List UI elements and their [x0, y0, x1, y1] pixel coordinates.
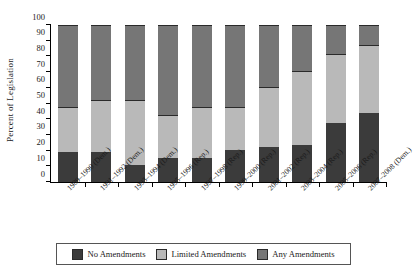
- y-tick: [46, 40, 51, 41]
- y-tick: [46, 118, 51, 119]
- y-tick-label: 90: [37, 28, 46, 37]
- y-tick-label: 10: [37, 154, 46, 163]
- y-tick-label: 20: [37, 138, 46, 147]
- x-tick: [219, 182, 220, 187]
- x-tick: [353, 182, 354, 187]
- bar-segment-any: [91, 25, 111, 100]
- y-tick: [46, 150, 51, 151]
- bar-1: [58, 25, 78, 182]
- y-tick: [46, 134, 51, 135]
- y-tick-label: 0: [41, 169, 45, 178]
- bar-segment-lim: [225, 107, 245, 150]
- legend-swatch: [156, 249, 167, 260]
- legend-label: No Amendments: [87, 249, 145, 259]
- bar-segment-any: [292, 25, 312, 71]
- y-tick-label: 60: [37, 75, 46, 84]
- y-tick-label: 80: [37, 44, 46, 53]
- y-tick-label: 70: [37, 59, 46, 68]
- y-tick-label: 50: [37, 91, 46, 100]
- chart-legend: No AmendmentsLimited AmendmentsAny Amend…: [56, 243, 351, 265]
- legend-label: Any Amendments: [272, 249, 334, 259]
- x-label-party: (Dem.): [392, 145, 413, 167]
- legend-swatch: [257, 249, 268, 260]
- y-tick: [46, 103, 51, 104]
- x-tick: [386, 182, 387, 187]
- x-tick: [252, 182, 253, 187]
- y-tick-label: 100: [32, 12, 45, 21]
- x-tick: [152, 182, 153, 187]
- bar-segment-any: [158, 25, 178, 115]
- y-axis-title: Percent of Legislation: [2, 40, 18, 160]
- legend-item: Any Amendments: [257, 249, 334, 260]
- x-tick: [319, 182, 320, 187]
- bar-segment-no: [359, 113, 379, 182]
- legend-item: No Amendments: [72, 249, 145, 260]
- y-axis-title-text: Percent of Legislation: [5, 58, 15, 142]
- y-tick: [46, 24, 51, 25]
- legend-label: Limited Amendments: [171, 249, 246, 259]
- y-tick: [46, 87, 51, 88]
- y-tick: [46, 71, 51, 72]
- bar-segment-any: [58, 25, 78, 107]
- bar-segment-any: [225, 25, 245, 107]
- x-tick: [185, 182, 186, 187]
- y-tick: [46, 165, 51, 166]
- bar-segment-any: [326, 25, 346, 54]
- y-tick-label: 40: [37, 106, 46, 115]
- bar-segment-lim: [359, 45, 379, 113]
- bar-segment-any: [259, 25, 279, 87]
- x-tick: [286, 182, 287, 187]
- bar-segment-lim: [58, 107, 78, 152]
- bar-segment-any: [359, 25, 379, 45]
- bar-segment-lim: [259, 87, 279, 147]
- y-tick: [46, 181, 51, 182]
- x-tick: [85, 182, 86, 187]
- bar-segment-any: [125, 25, 145, 100]
- bar-segment-lim: [326, 54, 346, 123]
- bar-segment-lim: [91, 100, 111, 152]
- y-tick: [46, 55, 51, 56]
- bar-segment-any: [192, 25, 212, 107]
- y-tick-label: 30: [37, 122, 46, 131]
- x-tick: [118, 182, 119, 187]
- bar-segment-lim: [292, 71, 312, 146]
- legend-swatch: [72, 249, 83, 260]
- legend-item: Limited Amendments: [156, 249, 246, 260]
